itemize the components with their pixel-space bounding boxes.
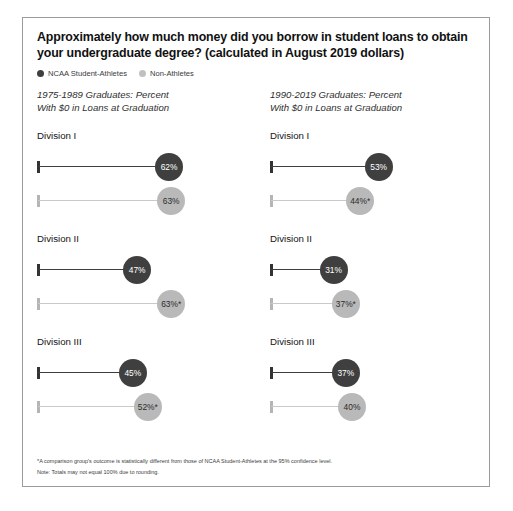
bar-row: 47% xyxy=(37,253,250,287)
value-bubble: 62% xyxy=(155,153,183,181)
group-division-iii-right: Division III 37% 40% xyxy=(270,336,475,424)
panel-1-header-line1: 1975-1989 Graduates: Percent xyxy=(37,88,250,102)
bar-row: 37%* xyxy=(270,287,475,321)
bar-track: 40% xyxy=(270,401,475,413)
legend-dot-light-icon xyxy=(139,70,146,77)
legend-item-athletes: NCAA Student-Athletes xyxy=(37,69,127,78)
value-bubble: 47% xyxy=(123,256,151,284)
panel-1990-2019: 1990-2019 Graduates: Percent With $0 in … xyxy=(256,88,475,424)
bar-row: 40% xyxy=(270,390,475,424)
chart-panel: Approximately how much money did you bor… xyxy=(22,17,490,487)
bar-row: 63% xyxy=(37,184,250,218)
value-bubble: 37%* xyxy=(332,290,360,318)
bar-line xyxy=(271,166,380,168)
group-label: Division II xyxy=(270,233,475,244)
footnote-significance: *A comparison group's outcome is statist… xyxy=(37,456,475,466)
value-bubble: 37% xyxy=(332,359,360,387)
group-label: Division III xyxy=(270,336,475,347)
bar-row: 44%* xyxy=(270,184,475,218)
legend-dot-dark-icon xyxy=(37,70,44,77)
value-bubble: 63%* xyxy=(157,290,185,318)
group-label: Division III xyxy=(37,336,250,347)
group-division-ii-right: Division II 31% 37%* xyxy=(270,233,475,321)
bar-row: 53% xyxy=(270,150,475,184)
chart-columns: 1975-1989 Graduates: Percent With $0 in … xyxy=(37,88,475,424)
bar-track: 52%* xyxy=(37,401,250,413)
bar-line xyxy=(38,166,170,168)
value-bubble: 31% xyxy=(320,256,348,284)
bar-row: 45% xyxy=(37,356,250,390)
bar-row: 62% xyxy=(37,150,250,184)
bar-row: 31% xyxy=(270,253,475,287)
value-bubble: 40% xyxy=(338,393,366,421)
bar-track: 37%* xyxy=(270,298,475,310)
footnotes: *A comparison group's outcome is statist… xyxy=(37,456,475,477)
group-label: Division I xyxy=(37,130,250,141)
bar-track: 63%* xyxy=(37,298,250,310)
bar-track: 37% xyxy=(270,367,475,379)
bar-track: 62% xyxy=(37,161,250,173)
panel-1975-1989: 1975-1989 Graduates: Percent With $0 in … xyxy=(37,88,256,424)
footnote-rounding: Note: Totals may not equal 100% due to r… xyxy=(37,467,475,477)
value-bubble: 63% xyxy=(157,187,185,215)
group-division-ii-left: Division II 47% 63%* xyxy=(37,233,250,321)
bar-track: 45% xyxy=(37,367,250,379)
bar-track: 31% xyxy=(270,264,475,276)
legend-label-non-athletes: Non-Athletes xyxy=(150,69,194,78)
panel-2-header-line2: With $0 in Loans at Graduation xyxy=(270,101,475,115)
bar-track: 63% xyxy=(37,195,250,207)
group-label: Division II xyxy=(37,233,250,244)
value-bubble: 52%* xyxy=(134,393,162,421)
group-label: Division I xyxy=(270,130,475,141)
panel-2-header: 1990-2019 Graduates: Percent With $0 in … xyxy=(270,88,475,118)
bar-row: 37% xyxy=(270,356,475,390)
bar-track: 47% xyxy=(37,264,250,276)
value-bubble: 44%* xyxy=(346,187,374,215)
value-bubble: 53% xyxy=(365,153,393,181)
bar-row: 63%* xyxy=(37,287,250,321)
bar-line xyxy=(38,200,172,202)
bar-track: 44%* xyxy=(270,195,475,207)
legend-item-non-athletes: Non-Athletes xyxy=(139,69,194,78)
panel-1-header-line2: With $0 in Loans at Graduation xyxy=(37,101,250,115)
group-division-iii-left: Division III 45% 52%* xyxy=(37,336,250,424)
legend-label-athletes: NCAA Student-Athletes xyxy=(48,69,127,78)
group-division-i-right: Division I 53% 44%* xyxy=(270,130,475,218)
bar-line xyxy=(38,303,172,305)
chart-legend: NCAA Student-Athletes Non-Athletes xyxy=(37,69,475,78)
bar-track: 53% xyxy=(270,161,475,173)
panel-1-header: 1975-1989 Graduates: Percent With $0 in … xyxy=(37,88,250,118)
group-division-i-left: Division I 62% 63% xyxy=(37,130,250,218)
value-bubble: 45% xyxy=(119,359,147,387)
bar-line xyxy=(38,406,149,408)
page-title: Approximately how much money did you bor… xyxy=(37,29,475,62)
bar-row: 52%* xyxy=(37,390,250,424)
panel-2-header-line1: 1990-2019 Graduates: Percent xyxy=(270,88,475,102)
